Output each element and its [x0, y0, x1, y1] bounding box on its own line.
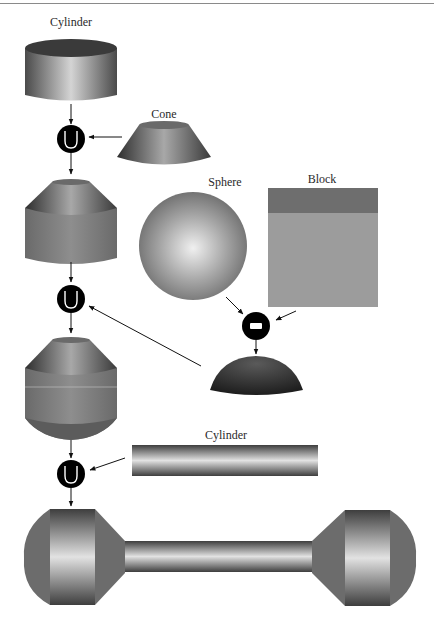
arrow	[226, 297, 243, 314]
union-operator-node	[57, 460, 85, 488]
sphere-label: Sphere	[208, 175, 241, 189]
difference-operator-node	[242, 312, 270, 340]
cylinder-primitive	[25, 39, 117, 101]
arrow	[90, 458, 125, 470]
union-operator-node	[57, 285, 85, 313]
hemisphere-result	[210, 356, 303, 395]
final-dumbbell-result	[24, 509, 416, 606]
cone-primitive	[117, 121, 211, 165]
cylinder-plus-cone-result	[25, 179, 117, 264]
block-label: Block	[308, 172, 337, 186]
union-operator-node	[57, 125, 85, 153]
sphere-primitive	[139, 192, 247, 300]
cylinder-bar-primitive	[132, 445, 318, 476]
cylinder-bar-label: Cylinder	[205, 428, 247, 442]
cone-label: Cone	[151, 107, 176, 121]
arrow	[276, 311, 296, 320]
block-primitive	[268, 188, 378, 307]
capped-body-result	[25, 337, 117, 440]
cylinder-label: Cylinder	[50, 15, 92, 29]
csg-tree-diagram	[0, 0, 434, 621]
